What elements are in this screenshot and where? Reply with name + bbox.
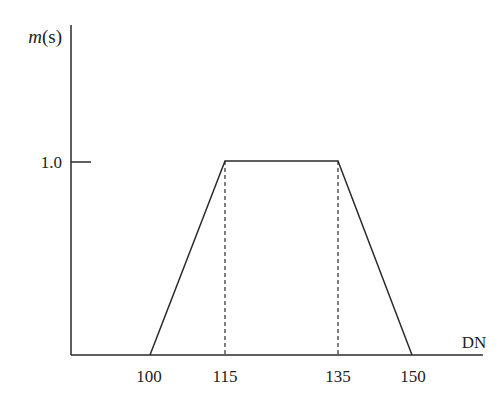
x-tick-label-135: 135 bbox=[325, 367, 351, 386]
x-tick-label-100: 100 bbox=[136, 367, 162, 386]
trapezoid-membership-chart: m(s) 1.0 100 115 135 150 DN bbox=[0, 0, 504, 403]
membership-curve bbox=[150, 161, 412, 355]
y-tick-label: 1.0 bbox=[41, 153, 62, 172]
x-tick-label-150: 150 bbox=[400, 367, 426, 386]
x-axis-label: DN bbox=[462, 333, 487, 352]
y-axis-label: m(s) bbox=[28, 26, 62, 48]
x-tick-label-115: 115 bbox=[213, 367, 238, 386]
